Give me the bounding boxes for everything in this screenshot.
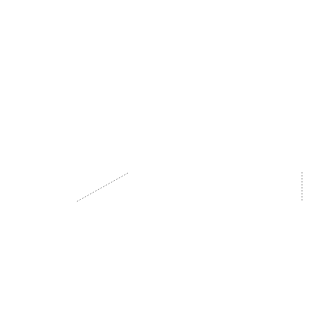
zoom-connector-left — [76, 173, 128, 202]
figure — [0, 0, 320, 319]
